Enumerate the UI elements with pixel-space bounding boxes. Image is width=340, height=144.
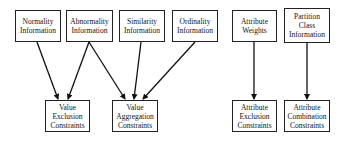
node-label-line: Constraints bbox=[287, 121, 326, 130]
node-label-line: Weights bbox=[241, 26, 268, 35]
node-label-line: Exclusion bbox=[50, 112, 84, 121]
node-label-line: Information bbox=[124, 26, 160, 35]
node-similarity-information: SimilarityInformation bbox=[119, 10, 165, 42]
node-label-line: Information bbox=[177, 26, 213, 35]
node-label-line: Information bbox=[70, 26, 108, 35]
node-label-line: Partition bbox=[289, 12, 325, 21]
edge-normality-to-value-exclusion bbox=[37, 42, 58, 99]
node-attribute-combination-constraints: AttributeCombinationConstraints bbox=[284, 100, 330, 132]
node-label-line: Value bbox=[50, 103, 84, 112]
node-label-line: Attribute bbox=[237, 103, 271, 112]
node-label-line: Constraints bbox=[237, 121, 271, 130]
node-label-line: Exclusion bbox=[237, 112, 271, 121]
node-label-line: Constraints bbox=[116, 121, 154, 130]
node-partition-class-information: PartitionClassInformation bbox=[284, 8, 330, 43]
node-label-line: Abnormality bbox=[70, 17, 108, 26]
node-label-line: Attribute bbox=[287, 103, 326, 112]
node-attribute-weights: AttributeWeights bbox=[232, 10, 277, 42]
node-label-line: Similarity bbox=[124, 17, 160, 26]
node-label-line: Ordinality bbox=[177, 17, 213, 26]
node-normality-information: NormalityInformation bbox=[15, 10, 61, 42]
edge-abnormality-to-value-aggregation bbox=[89, 42, 125, 99]
node-label-line: Information bbox=[20, 26, 56, 35]
node-value-exclusion-constraints: ValueExclusionConstraints bbox=[45, 100, 90, 132]
node-label-line: Attribute bbox=[241, 17, 268, 26]
node-label-line: Combination bbox=[287, 112, 326, 121]
node-label-line: Constraints bbox=[50, 121, 84, 130]
node-abnormality-information: AbnormalityInformation bbox=[66, 10, 113, 42]
node-label-line: Class bbox=[289, 21, 325, 30]
edge-abnormality-to-value-exclusion bbox=[68, 42, 89, 99]
node-label-line: Normality bbox=[20, 17, 56, 26]
node-value-aggregation-constraints: ValueAggregationConstraints bbox=[112, 100, 158, 132]
edge-similarity-to-value-aggregation bbox=[134, 42, 141, 99]
node-label-line: Value bbox=[116, 103, 154, 112]
node-attribute-exclusion-constraints: AttributeExclusionConstraints bbox=[232, 100, 277, 132]
node-ordinality-information: OrdinalityInformation bbox=[172, 10, 218, 42]
node-label-line: Aggregation bbox=[116, 112, 154, 121]
edge-ordinality-to-value-aggregation bbox=[143, 42, 195, 99]
node-label-line: Information bbox=[289, 30, 325, 39]
